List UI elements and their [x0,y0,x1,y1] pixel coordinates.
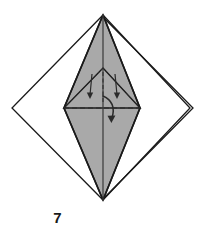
origami-figure: 7 [0,0,205,247]
step-number-label: 7 [0,208,115,228]
